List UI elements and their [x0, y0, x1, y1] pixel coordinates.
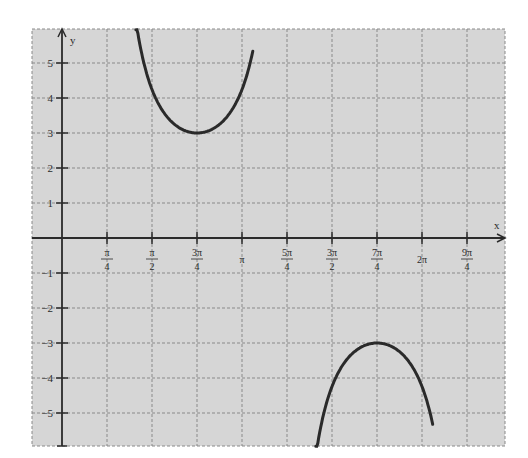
x-tick-label-numerator: 7π — [372, 247, 382, 258]
x-tick-label-denominator: 2 — [330, 261, 335, 272]
x-tick-label-denominator: 4 — [285, 261, 290, 272]
x-axis-label: x — [494, 219, 500, 231]
x-tick-label-numerator: π — [104, 247, 109, 258]
y-tick-label: 4 — [48, 92, 54, 104]
x-tick-label-denominator: 4 — [195, 261, 200, 272]
x-tick-label-numerator: π — [149, 247, 154, 258]
y-tick-label: 1 — [48, 197, 54, 209]
y-tick-label: −4 — [41, 372, 53, 384]
y-tick-label: 2 — [48, 162, 54, 174]
y-tick-label: −2 — [41, 302, 53, 314]
y-tick-label: −3 — [41, 337, 53, 349]
y-tick-label: 5 — [48, 57, 54, 69]
x-tick-label-numerator: 9π — [462, 247, 472, 258]
x-tick-label-numerator: 3π — [192, 247, 202, 258]
x-tick-label-numerator: 3π — [327, 247, 337, 258]
y-tick-label: −1 — [41, 267, 53, 279]
x-tick-label-denominator: 2 — [150, 261, 155, 272]
x-tick-label-numerator: 5π — [282, 247, 292, 258]
x-tick-label-denominator: 4 — [465, 261, 470, 272]
x-tick-label-denominator: 4 — [105, 261, 110, 272]
y-tick-label: −5 — [41, 407, 53, 419]
x-tick-label: π — [239, 254, 244, 265]
chart: π4π23π4π5π43π27π42π9π454321−1−2−3−4−5 y … — [0, 0, 528, 458]
y-tick-label: 3 — [48, 127, 54, 139]
x-tick-label: 2π — [417, 254, 427, 265]
x-tick-label-denominator: 4 — [375, 261, 380, 272]
y-axis-label: y — [70, 34, 76, 46]
